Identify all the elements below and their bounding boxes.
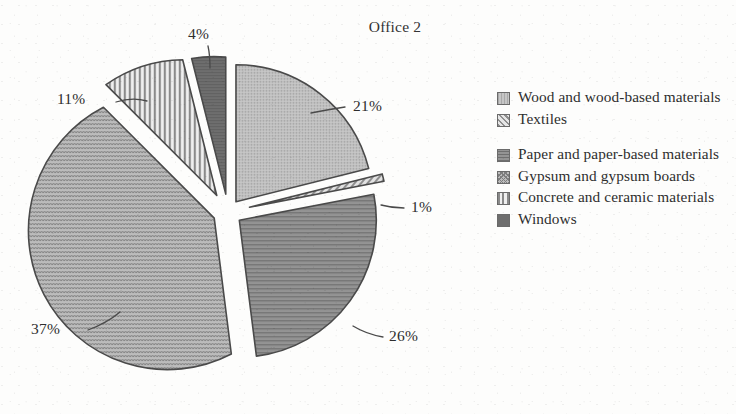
swatch-textiles-icon [497,114,510,127]
swatch-paper-icon [497,149,510,162]
legend-label-wood: Wood and wood-based materials [518,88,721,107]
data-label-textiles: 1% [411,198,432,216]
legend-label-windows: Windows [518,210,577,229]
data-label-windows: 4% [188,25,209,43]
legend-item-textiles[interactable]: Textiles [497,110,736,129]
legend-item-wood[interactable]: Wood and wood-based materials [497,88,736,107]
legend-item-concrete[interactable]: Concrete and ceramic materials [497,188,736,207]
chart-legend: Wood and wood-based materials Textiles P… [497,88,736,231]
legend-label-paper: Paper and paper-based materials [518,145,719,164]
data-label-concrete: 11% [57,90,85,108]
legend-label-gypsum: Gypsum and gypsum boards [518,167,695,186]
swatch-gypsum-icon [497,171,510,184]
swatch-concrete-icon [497,192,510,205]
legend-item-paper[interactable]: Paper and paper-based materials [497,145,736,164]
data-label-wood: 21% [353,97,382,115]
legend-item-gypsum[interactable]: Gypsum and gypsum boards [497,167,736,186]
legend-label-concrete: Concrete and ceramic materials [518,188,714,207]
data-label-gypsum: 37% [31,320,60,338]
leader-line-paper [353,326,383,337]
pie-slice-wood[interactable] [236,65,369,202]
swatch-wood-icon [497,92,510,105]
legend-label-textiles: Textiles [518,110,567,129]
legend-item-windows[interactable]: Windows [497,210,736,229]
leader-line-textiles [381,205,404,208]
pie-chart-figure: Office 2 21% 1% 26% 37% 11% 4% [0,0,480,414]
chart-title: Office 2 [330,18,460,36]
pie-chart-svg [0,0,480,414]
swatch-windows-icon [497,214,510,227]
pie-slice-paper[interactable] [239,194,376,356]
data-label-paper: 26% [389,327,418,345]
